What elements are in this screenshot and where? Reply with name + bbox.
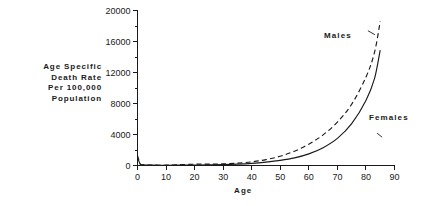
y-tick-label: 0 [125, 161, 130, 171]
x-tick-label: 50 [275, 172, 285, 182]
x-tick-label: 60 [304, 172, 314, 182]
chart-figure: Age Specific Death Rate Per 100,000 Popu… [0, 0, 424, 206]
x-axis-ticks: 0102030405060708090 [135, 166, 400, 182]
y-tick-label: 20000 [105, 6, 130, 16]
y-tick-label: 4000 [110, 130, 130, 140]
series-label-males: Males [324, 31, 352, 40]
y-tick-label: 12000 [105, 68, 130, 78]
x-tick-label: 10 [161, 172, 171, 182]
series-label-females: Females [369, 113, 409, 122]
x-tick-label: 20 [190, 172, 200, 182]
x-tick-label: 70 [332, 172, 342, 182]
series-line-males [138, 21, 381, 165]
males-annotation-pointer [368, 31, 375, 35]
chart-plot-area: 040008000120001600020000 010203040506070… [0, 0, 424, 206]
x-tick-label: 0 [135, 172, 140, 182]
females-annotation-pointer [377, 133, 382, 137]
x-tick-label: 80 [361, 172, 371, 182]
y-tick-label: 8000 [110, 99, 130, 109]
x-tick-label: 30 [218, 172, 228, 182]
series-line-females [138, 50, 381, 165]
x-tick-label: 40 [247, 172, 257, 182]
x-axis-title: Age [234, 186, 252, 195]
y-axis-ticks: 040008000120001600020000 [105, 6, 137, 171]
y-tick-label: 16000 [105, 37, 130, 47]
x-tick-label: 90 [389, 172, 399, 182]
